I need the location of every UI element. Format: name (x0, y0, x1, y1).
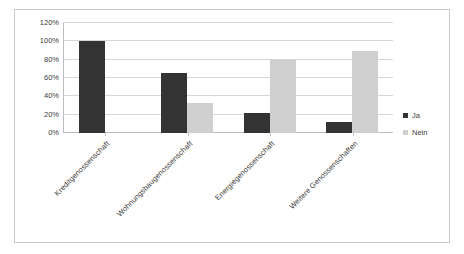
plot-area (63, 23, 393, 133)
bar-slot (270, 23, 296, 133)
bar-ja[interactable] (79, 41, 105, 133)
legend-item[interactable]: Nein (403, 128, 459, 137)
bar-slot (352, 23, 378, 133)
x-axis-label-cell: Energiegenossenschaft (229, 137, 312, 237)
bar-nein[interactable] (270, 60, 296, 133)
bar-ja[interactable] (161, 73, 187, 134)
bar-nein[interactable] (187, 103, 213, 133)
x-axis-tick-mark (270, 133, 271, 136)
y-axis-tick-label: 20% (44, 111, 59, 119)
bar-group (311, 23, 393, 133)
chart-frame: 0%20%40%60%80%100%120% Kreditgenossensch… (14, 9, 450, 243)
bar-ja[interactable] (244, 113, 270, 133)
bar-groups (64, 23, 393, 133)
bar-group (146, 23, 228, 133)
x-axis-tick-mark (188, 133, 189, 136)
bar-slot (79, 23, 105, 133)
y-axis-tick-label: 0% (48, 129, 59, 137)
x-axis-label-cell: Kreditgenossenschaft (64, 137, 147, 237)
bar-group (229, 23, 311, 133)
legend-swatch-icon (403, 130, 408, 135)
y-axis-tick-label: 40% (44, 92, 59, 100)
x-axis-label-cell: Wohnungsbaugenossenschaft (147, 137, 230, 237)
bar-nein[interactable] (352, 51, 378, 133)
x-axis-category-labels: KreditgenossenschaftWohnungsbaugenossens… (64, 137, 394, 237)
x-axis-tick-mark (353, 133, 354, 136)
chart-legend: JaNein (403, 111, 459, 145)
bar-slot (105, 23, 131, 133)
y-axis-tick-label: 60% (44, 74, 59, 82)
bar-slot (161, 23, 187, 133)
x-axis-category-label: Kreditgenossenschaft (53, 139, 112, 198)
x-axis-label-cell: Weitere Genossenschaften (312, 137, 395, 237)
bar-ja[interactable] (326, 122, 352, 133)
legend-item[interactable]: Ja (403, 111, 459, 120)
y-axis-tick-label: 80% (44, 56, 59, 64)
x-axis-tick-mark (105, 133, 106, 136)
y-axis-tick-labels: 0%20%40%60%80%100%120% (25, 23, 59, 133)
legend-item-label: Ja (412, 111, 420, 120)
bar-slot (326, 23, 352, 133)
y-axis-tick-label: 120% (40, 19, 59, 27)
legend-swatch-icon (403, 113, 408, 118)
bar-slot (187, 23, 213, 133)
y-axis-tick-label: 100% (40, 37, 59, 45)
legend-item-label: Nein (412, 128, 427, 137)
bar-slot (244, 23, 270, 133)
bar-group (64, 23, 146, 133)
